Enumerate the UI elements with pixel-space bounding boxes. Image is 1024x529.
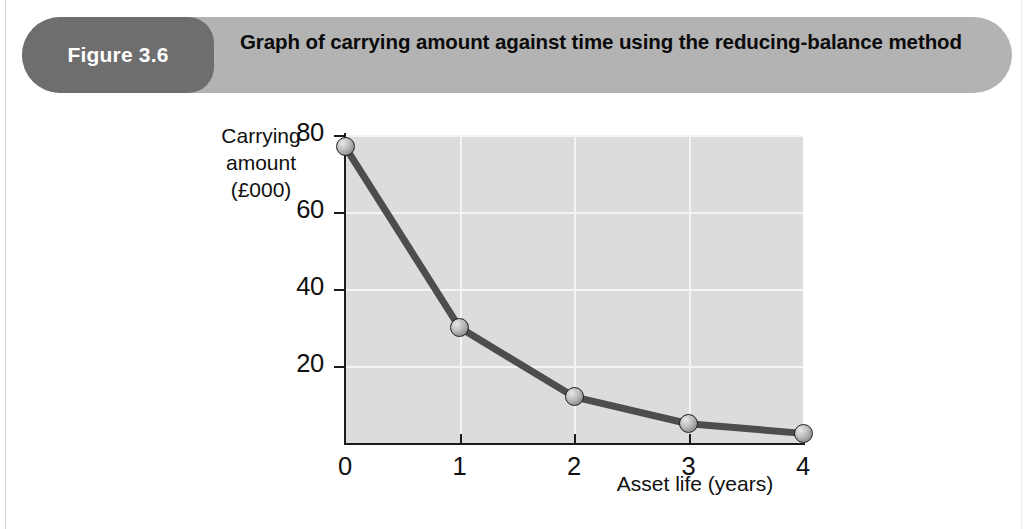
x-tick-label-text: 2 bbox=[567, 452, 581, 480]
y-tick-mark bbox=[334, 366, 345, 368]
data-point-marker bbox=[565, 387, 584, 406]
y-tick-mark bbox=[334, 289, 345, 291]
y-axis-label: Carrying amount (£000) bbox=[205, 122, 317, 203]
x-tick-label: 1 bbox=[440, 452, 480, 481]
data-point-marker bbox=[794, 424, 813, 443]
x-tick-mark bbox=[689, 434, 691, 445]
y-axis-label-line-1: Carrying bbox=[205, 122, 317, 149]
y-tick-label-text: 20 bbox=[296, 349, 324, 378]
data-point-marker bbox=[450, 318, 469, 337]
x-axis-label: Asset life (years) bbox=[585, 472, 805, 496]
x-tick-label-text: 1 bbox=[453, 452, 467, 480]
figure-header-banner: Figure 3.6 Graph of carrying amount agai… bbox=[22, 17, 1012, 93]
x-tick-label: 0 bbox=[325, 452, 365, 481]
figure-number-badge: Figure 3.6 bbox=[22, 17, 214, 93]
y-tick-mark bbox=[334, 212, 345, 214]
figure-number-label: Figure 3.6 bbox=[67, 43, 168, 67]
y-axis-label-line-3: (£000) bbox=[205, 176, 317, 203]
chart-container: 20406080 01234 Carrying amount (£000) As… bbox=[0, 100, 1024, 529]
x-tick-label-text: 0 bbox=[338, 452, 352, 480]
gridline-vertical bbox=[689, 135, 691, 443]
y-axis-label-line-2: amount bbox=[205, 149, 317, 176]
x-tick-mark bbox=[460, 434, 462, 445]
y-tick-label-text: 40 bbox=[296, 272, 324, 301]
gridline-vertical bbox=[460, 135, 462, 443]
figure-title: Graph of carrying amount against time us… bbox=[240, 29, 970, 55]
x-tick-mark bbox=[574, 434, 576, 445]
data-point-marker bbox=[336, 137, 355, 156]
